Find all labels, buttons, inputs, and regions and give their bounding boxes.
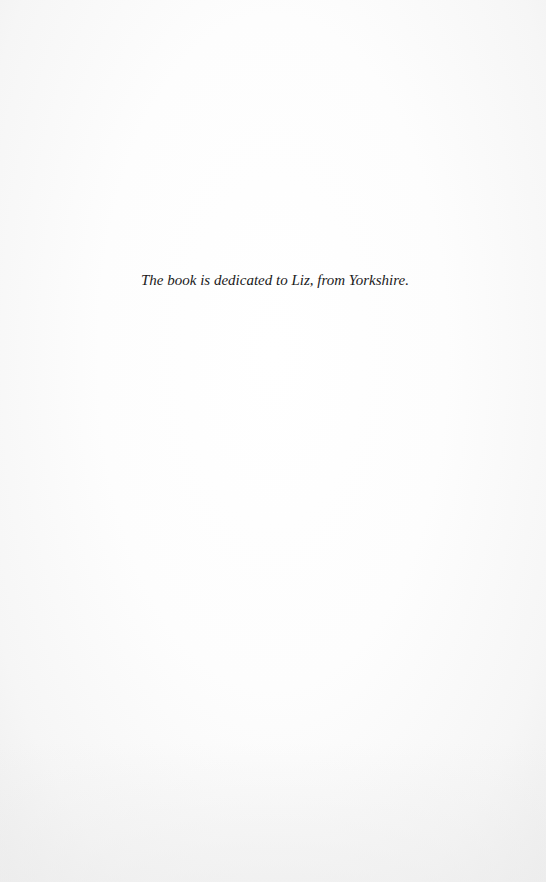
book-page: The book is dedicated to Liz, from Yorks…	[0, 0, 546, 882]
dedication-text: The book is dedicated to Liz, from Yorks…	[0, 270, 546, 290]
